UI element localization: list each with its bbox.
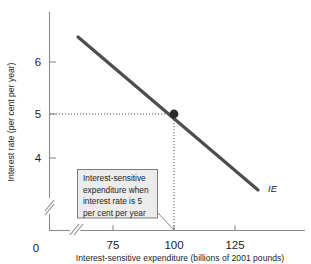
x-axis-break-icon	[70, 224, 79, 235]
y-tick-label-4: 4	[35, 152, 42, 164]
x-axis-break-icon	[74, 224, 83, 235]
y-tick-label-6: 6	[35, 56, 41, 68]
annotation-line-2: expenditure when	[83, 185, 149, 195]
highlight-point-marker	[170, 110, 179, 119]
x-tick-label-125: 125	[225, 239, 244, 251]
annotation-line-1: Interest-sensitive	[83, 173, 146, 183]
annotation-line-4: per cent per year	[83, 208, 146, 218]
annotation-line-3: interest rate is 5	[83, 196, 142, 206]
y-axis-title: Interest rate (per cent per year)	[6, 62, 16, 181]
annotation-leader-line	[157, 212, 174, 230]
chart-container: 6 5 4 75 100 125 0 IE Interest-sensitive…	[0, 0, 311, 264]
y-tick-label-5: 5	[35, 108, 41, 120]
ie-curve-label: IE	[268, 183, 278, 194]
interest-sensitive-expenditure-chart: 6 5 4 75 100 125 0 IE Interest-sensitive…	[0, 0, 311, 264]
x-axis-title: Interest-sensitive expenditure (billions…	[76, 253, 284, 263]
x-tick-label-75: 75	[107, 239, 120, 251]
origin-label: 0	[33, 242, 39, 254]
x-tick-label-100: 100	[164, 239, 183, 251]
